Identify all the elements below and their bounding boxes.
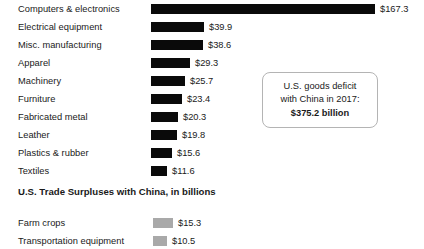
bar-fill	[151, 130, 177, 140]
bar-category-label: Misc. manufacturing	[18, 36, 102, 54]
surplus-bar-chart: Farm crops$15.3Transportation equipment$…	[0, 214, 424, 249]
bar-category-label: Leather	[18, 126, 50, 144]
bar-fill	[151, 40, 203, 50]
bar-track	[151, 148, 172, 158]
bar-row: Leather$19.8	[0, 126, 424, 144]
bar-category-label: Plastics & rubber	[18, 144, 89, 162]
bar-category-label: Computers & electronics	[18, 0, 120, 18]
deficit-callout-box: U.S. goods deficit with China in 2017: $…	[262, 72, 378, 128]
bar-fill	[151, 22, 204, 32]
bar-value-label: $10.5	[172, 232, 195, 249]
callout-line-1: U.S. goods deficit	[284, 80, 357, 93]
bar-track	[151, 166, 167, 176]
bar-track	[153, 218, 173, 228]
bar-category-label: Transportation equipment	[18, 232, 124, 249]
bar-track	[151, 112, 178, 122]
bar-row: Textiles$11.6	[0, 162, 424, 180]
bar-value-label: $19.8	[182, 126, 205, 144]
bar-category-label: Apparel	[18, 54, 50, 72]
bar-row: Electrical equipment$39.9	[0, 18, 424, 36]
bar-row: Farm crops$15.3	[0, 214, 424, 232]
bar-fill	[151, 58, 190, 68]
bar-category-label: Farm crops	[18, 214, 65, 232]
bar-row: Apparel$29.3	[0, 54, 424, 72]
bar-track	[151, 58, 190, 68]
bar-value-label: $25.7	[190, 72, 213, 90]
bar-track	[151, 76, 185, 86]
bar-track	[151, 130, 177, 140]
bar-category-label: Machinery	[18, 72, 61, 90]
bar-row: Plastics & rubber$15.6	[0, 144, 424, 162]
bar-value-label: $15.3	[178, 214, 201, 232]
bar-value-label: $38.6	[208, 36, 231, 54]
bar-value-label: $20.3	[183, 108, 206, 126]
bar-row: Computers & electronics$167.3	[0, 0, 424, 18]
bar-value-label: $39.9	[209, 18, 232, 36]
bar-fill	[151, 148, 172, 158]
bar-value-label: $15.6	[177, 144, 200, 162]
bar-row: Transportation equipment$10.5	[0, 232, 424, 249]
bar-category-label: Fabricated metal	[18, 108, 88, 126]
bar-value-label: $167.3	[380, 0, 408, 18]
bar-track	[153, 236, 167, 246]
bar-row: Misc. manufacturing$38.6	[0, 36, 424, 54]
bar-category-label: Furniture	[18, 90, 55, 108]
callout-line-2: with China in 2017:	[280, 93, 359, 106]
bar-fill	[151, 76, 185, 86]
bar-fill	[151, 94, 182, 104]
bar-category-label: Textiles	[18, 162, 49, 180]
bar-value-label: $23.4	[187, 90, 210, 108]
bar-value-label: $29.3	[195, 54, 218, 72]
bar-fill	[153, 236, 167, 246]
surplus-section-heading: U.S. Trade Surpluses with China, in bill…	[18, 186, 216, 197]
bar-track	[151, 94, 182, 104]
bar-track	[151, 22, 204, 32]
bar-fill	[151, 4, 375, 14]
bar-track	[151, 4, 375, 14]
bar-value-label: $11.6	[172, 162, 195, 180]
callout-total-amount: $375.2 billion	[291, 106, 349, 120]
bar-fill	[151, 166, 167, 176]
bar-track	[151, 40, 203, 50]
bar-category-label: Electrical equipment	[18, 18, 102, 36]
bar-fill	[151, 112, 178, 122]
bar-fill	[153, 218, 173, 228]
